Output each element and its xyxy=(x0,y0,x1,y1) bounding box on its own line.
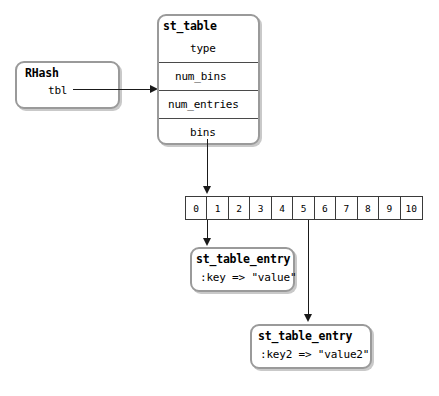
connector-bins-to-array xyxy=(207,139,208,187)
st-table-divider-3 xyxy=(159,118,258,119)
st-table-field-num-entries: num_entries xyxy=(168,98,239,111)
st-table-box-title: st_table xyxy=(163,19,217,33)
st-table-divider-2 xyxy=(159,90,258,91)
connector-rhash-to-st-table xyxy=(73,89,153,90)
bin-cell-4: 4 xyxy=(272,197,293,219)
bin-cell-1: 1 xyxy=(207,197,228,219)
bin-cell-7: 7 xyxy=(336,197,357,219)
connector-bins-to-array-arrowhead xyxy=(203,186,211,194)
connector-cell5-to-entry2-arrowhead xyxy=(304,314,312,322)
bins-array: 012345678910 xyxy=(185,196,423,220)
st-table-entry-2-title: st_table_entry xyxy=(258,329,352,343)
st-table-field-type: type xyxy=(190,42,216,55)
bin-cell-2: 2 xyxy=(229,197,250,219)
connector-cell5-to-entry2 xyxy=(308,220,309,316)
st-table-entry-2-pair: :key2 => "value2" xyxy=(260,348,369,361)
st-table-field-num-bins: num_bins xyxy=(175,70,226,83)
st-table-field-bins: bins xyxy=(190,126,216,139)
rhash-box-title: RHash xyxy=(25,66,59,80)
bin-cell-10: 10 xyxy=(401,197,422,219)
rhash-field-tbl: tbl xyxy=(48,84,67,97)
st-table-divider-1 xyxy=(159,62,258,63)
bin-cell-5: 5 xyxy=(293,197,314,219)
bin-cell-9: 9 xyxy=(379,197,400,219)
st-table-entry-1-title: st_table_entry xyxy=(196,252,290,266)
connector-cell2-to-entry1-arrowhead xyxy=(203,238,211,246)
bin-cell-3: 3 xyxy=(250,197,271,219)
bin-cell-0: 0 xyxy=(186,197,207,219)
bin-cell-6: 6 xyxy=(315,197,336,219)
st-table-entry-1-pair: :key => "value" xyxy=(200,271,296,284)
bin-cell-8: 8 xyxy=(358,197,379,219)
diagram-canvas: RHash tbl st_table type num_bins num_ent… xyxy=(0,0,439,396)
